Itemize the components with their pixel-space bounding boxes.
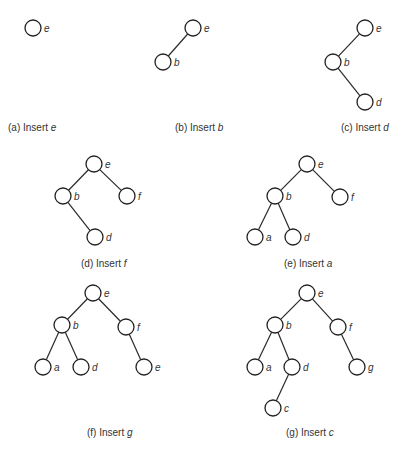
tree-node-label: e [318,288,324,299]
tree-node-circle [35,359,51,375]
caption-text: (b) Insert [175,122,218,133]
tree-node-circle [357,20,373,36]
tree-node-label: b [286,191,292,202]
tree-node-label: e [376,23,382,34]
tree-node-circle [267,188,283,204]
tree-node-label: d [303,362,309,373]
tree-node-label: e [104,288,110,299]
edge-b-d [68,202,90,230]
tree-node-label: a [54,362,60,373]
tree-node-circle [54,317,70,333]
caption-variable: d [383,122,389,133]
caption-text: (d) Insert [81,258,124,269]
tree-node-circle [284,359,300,375]
tree-node-label: e [318,159,324,170]
edge-b-d [338,68,360,96]
tree-node-label: g [368,362,374,373]
tree-node-circle [86,156,102,172]
edge-b-a [258,332,271,360]
tree-node-label: b [344,57,350,68]
caption-text: (a) Insert [8,122,51,133]
caption-variable: g [127,427,133,438]
caption-variable: b [218,122,224,133]
edge-e-b [281,170,302,191]
tree-node-circle [285,229,301,245]
edge-e-b [168,34,187,56]
tree-panel-a: e [25,20,50,36]
tree-node-circle [247,359,263,375]
edge-f-g [129,334,140,359]
caption-text: (f) Insert [87,427,127,438]
tree-node-label: d [304,232,310,243]
caption-variable: c [329,427,334,438]
tree-node-circle [87,229,103,245]
tree-panel-d: ebfd [55,156,142,245]
caption-text: (c) Insert [341,122,383,133]
caption-b: (b) Insert b [175,122,223,133]
edge-d-c [276,374,288,400]
edge-e-b [69,170,89,191]
tree-node-label: f [349,322,353,333]
caption-e: (e) Insert a [284,258,332,269]
tree-node-circle [267,317,283,333]
tree-node-circle [325,54,341,70]
caption-variable: f [124,258,127,269]
tree-diagrams: eebebdebfdebfadebfadeebfadgc [0,0,406,451]
tree-node-circle [349,359,365,375]
tree-panel-c: ebd [325,20,382,110]
caption-text: (e) Insert [284,258,327,269]
tree-node-label: b [286,320,292,331]
edge-e-f [100,170,122,191]
tree-node-label: e [44,23,50,34]
tree-node-circle [25,20,41,36]
edge-e-b [338,34,359,56]
edge-e-f [313,170,335,192]
tree-node-label: f [137,322,141,333]
tree-node-circle [119,188,135,204]
tree-node-label: e [105,159,111,170]
tree-panel-g: ebfadgc [247,285,374,416]
tree-node-circle [265,400,281,416]
edge-b-d [278,203,290,229]
tree-node-label: f [351,192,355,203]
tree-node-label: f [138,191,142,202]
edge-e-b [281,299,302,320]
caption-variable: a [327,258,333,269]
tree-node-circle [332,189,348,205]
tree-node-label: a [266,362,272,373]
caption-f: (f) Insert g [87,427,133,438]
tree-node-label: b [174,57,180,68]
bst-insertion-figure: eebebdebfdebfadebfadeebfadgc (a) Insert … [0,0,406,451]
tree-panel-f: ebfade [35,285,161,375]
tree-node-label: d [92,362,98,373]
tree-node-circle [330,319,346,335]
tree-node-label: e [204,23,210,34]
tree-node-circle [357,94,373,110]
tree-node-circle [299,285,315,301]
tree-node-circle [85,285,101,301]
edge-b-a [259,203,272,230]
tree-node-label: a [266,232,272,243]
edge-e-f [99,299,121,322]
tree-node-label: d [376,97,382,108]
tree-node-circle [73,359,89,375]
edge-e-f [312,299,332,321]
caption-c: (c) Insert d [341,122,389,133]
edge-b-a [46,332,58,359]
tree-node-circle [299,156,315,172]
tree-node-circle [118,319,134,335]
edge-e-b [68,299,88,320]
tree-node-label: e [155,362,161,373]
edge-b-d [65,332,77,359]
tree-node-circle [55,188,71,204]
tree-node-circle [136,359,152,375]
tree-node-label: b [74,191,80,202]
tree-panel-b: eb [155,20,210,70]
tree-node-circle [247,229,263,245]
caption-a: (a) Insert e [8,122,56,133]
caption-variable: e [51,122,57,133]
tree-node-circle [185,20,201,36]
caption-g: (g) Insert c [286,427,334,438]
tree-panel-e: ebfad [247,156,355,245]
edge-f-g [341,334,353,360]
